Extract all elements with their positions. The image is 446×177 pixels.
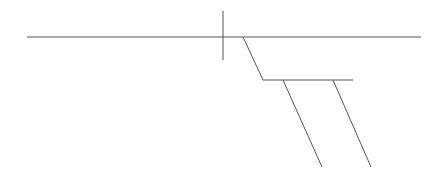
first-slant-line: [243, 37, 263, 80]
right-lower-slant-line: [333, 80, 371, 167]
line-diagram: [0, 0, 446, 177]
left-lower-slant-line: [283, 80, 322, 167]
